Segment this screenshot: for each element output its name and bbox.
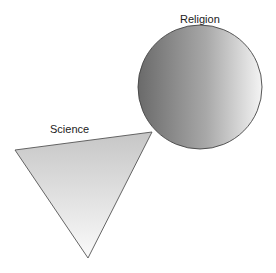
science-triangle [15,132,152,258]
religion-label: Religion [180,13,220,25]
diagram-svg: Religion Science [0,0,276,273]
diagram-canvas: Religion Science [0,0,276,273]
religion-circle [138,25,262,149]
science-label: Science [50,123,89,135]
